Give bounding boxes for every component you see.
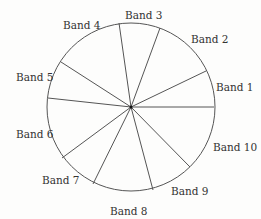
center-point (130, 106, 133, 109)
band-label: Band 3 (125, 9, 162, 21)
band-divider (131, 107, 153, 190)
band-label: Band 2 (191, 33, 228, 45)
band-divider (93, 107, 131, 184)
band-label: Band 9 (171, 185, 208, 197)
band-label: Band 6 (16, 128, 54, 140)
band-label: Band 8 (110, 205, 147, 217)
band-divider (131, 107, 190, 167)
band-diagram: Band 1Band 2Band 3Band 4Band 5Band 6Band… (0, 0, 261, 219)
band-divider (62, 107, 131, 158)
band-divider (119, 23, 131, 107)
band-label: Band 5 (16, 71, 53, 83)
band-label: Band 1 (216, 81, 253, 93)
band-label: Band 4 (63, 19, 101, 31)
band-label: Band 7 (42, 174, 79, 186)
band-label: Band 10 (213, 141, 257, 153)
